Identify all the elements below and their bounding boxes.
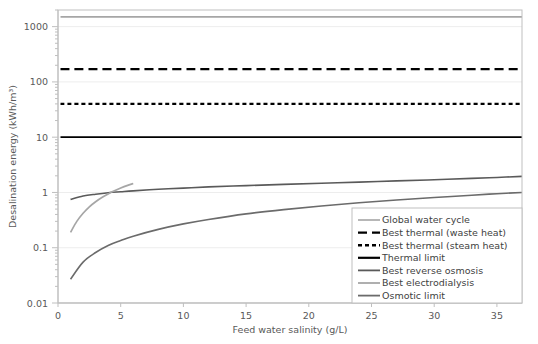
legend-label: Best electrodialysis xyxy=(382,277,474,288)
x-tick-label: 35 xyxy=(491,310,503,321)
y-tick-label: 1000 xyxy=(24,21,48,32)
x-axis-title: Feed water salinity (g/L) xyxy=(233,324,348,335)
legend: Global water cycleBest thermal (waste he… xyxy=(352,208,522,303)
y-tick-label: 1 xyxy=(42,187,48,198)
x-tick-label: 0 xyxy=(55,310,61,321)
desalination-energy-chart: 0.010.1110100100005101520253035Feed wate… xyxy=(0,0,538,344)
x-tick-label: 20 xyxy=(303,310,315,321)
x-tick-label: 25 xyxy=(365,310,377,321)
legend-label: Global water cycle xyxy=(382,214,470,225)
x-tick-label: 30 xyxy=(428,310,440,321)
x-tick-label: 10 xyxy=(177,310,189,321)
y-tick-label: 0.01 xyxy=(27,298,48,309)
x-tick-label: 15 xyxy=(240,310,252,321)
legend-label: Best reverse osmosis xyxy=(382,265,483,276)
y-tick-label: 0.1 xyxy=(33,242,48,253)
legend-label: Thermal limit xyxy=(381,252,445,263)
legend-label: Osmotic limit xyxy=(382,290,445,301)
x-axis: 05101520253035 xyxy=(55,303,522,321)
chart-container: 0.010.1110100100005101520253035Feed wate… xyxy=(0,0,538,344)
y-tick-label: 10 xyxy=(36,132,48,143)
y-axis: 0.010.11101001000 xyxy=(24,10,58,309)
legend-label: Best thermal (waste heat) xyxy=(382,227,506,238)
y-axis-title: Desalination energy (kWh/m³) xyxy=(7,85,18,228)
legend-label: Best thermal (steam heat) xyxy=(382,240,508,251)
y-tick-label: 100 xyxy=(30,76,48,87)
x-tick-label: 5 xyxy=(118,310,124,321)
